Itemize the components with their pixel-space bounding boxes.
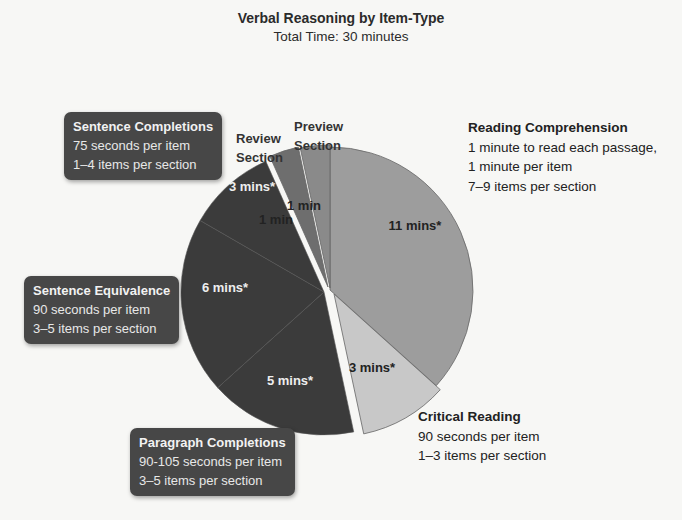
slice-value-label: 6 mins* <box>202 280 249 295</box>
callout-line: 90-105 seconds per item <box>139 452 286 471</box>
slice-value-label: 5 mins* <box>267 373 314 388</box>
callout-critical-reading: Critical Reading 90 seconds per item 1–3… <box>418 407 546 466</box>
label-review-section: Review Section <box>236 129 283 167</box>
label-line: Section <box>294 136 343 155</box>
callout-line: 90 seconds per item <box>418 427 546 447</box>
callout-line: 75 seconds per item <box>73 136 213 155</box>
pie-chart: 11 mins*3 mins*5 mins*6 mins*3 mins*1 mi… <box>0 0 682 520</box>
callout-sentence-completions: Sentence Completions 75 seconds per item… <box>64 112 222 180</box>
slice-value-label: 3 mins* <box>229 179 276 194</box>
callout-line: 1 minute to read each passage, <box>468 138 657 158</box>
callout-line: 3–5 items per section <box>33 319 170 338</box>
slice-value-label: 1 min <box>287 198 321 213</box>
callout-line: 1 minute per item <box>468 157 657 177</box>
callout-line: 1–4 items per section <box>73 155 213 174</box>
callout-line: 7–9 items per section <box>468 177 657 197</box>
callout-paragraph-completions: Paragraph Completions 90-105 seconds per… <box>130 428 295 496</box>
callout-line: 90 seconds per item <box>33 300 170 319</box>
slice-value-label: 11 mins* <box>389 218 443 233</box>
label-line: Section <box>236 148 283 167</box>
slice-value-label: 3 mins* <box>349 360 396 375</box>
label-preview-section: Preview Section <box>294 117 343 155</box>
callout-title: Sentence Equivalence <box>33 281 170 300</box>
callout-title: Reading Comprehension <box>468 118 657 138</box>
callout-title: Sentence Completions <box>73 117 213 136</box>
callout-line: 1–3 items per section <box>418 446 546 466</box>
callout-line: 3–5 items per section <box>139 471 286 490</box>
slice-value-label: 1 min <box>259 212 293 227</box>
callout-title: Critical Reading <box>418 407 546 427</box>
callout-sentence-equivalence: Sentence Equivalence 90 seconds per item… <box>24 276 179 344</box>
label-line: Review <box>236 129 283 148</box>
callout-reading-comprehension: Reading Comprehension 1 minute to read e… <box>468 118 657 196</box>
label-line: Preview <box>294 117 343 136</box>
callout-title: Paragraph Completions <box>139 433 286 452</box>
